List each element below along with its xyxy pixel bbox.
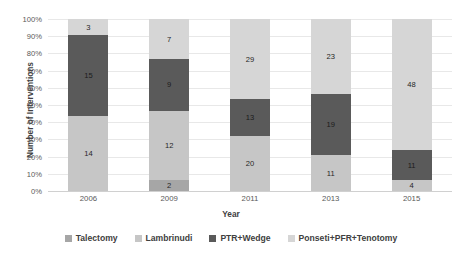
bar-column[interactable]: 31514 [68,19,108,191]
bar-segment[interactable]: 11 [392,150,432,180]
legend-swatch-icon [65,235,72,242]
chart-legend: TalectomyLambrinudiPTR+WedgePonseti+PFR+… [0,233,462,243]
x-axis-title: Year [0,209,462,219]
y-axis-tick-label: 0% [2,187,42,196]
y-axis-tick-label: 80% [2,49,42,58]
legend-label: Ponseti+PFR+Tenotomy [299,233,398,243]
bar-column[interactable]: 79122 [149,19,189,191]
bar-segment[interactable]: 3 [68,19,108,35]
bar-segment[interactable]: 48 [392,19,432,150]
bar-segment[interactable]: 9 [149,59,189,111]
bar-segment[interactable]: 13 [230,99,270,135]
bar-column[interactable]: 48114 [392,19,432,191]
bar-segment[interactable]: 12 [149,111,189,180]
x-axis-tick-label: 2015 [392,194,432,208]
bar-segment[interactable]: 20 [230,136,270,191]
bar-segment[interactable]: 23 [311,19,351,94]
y-axis-tick-label: 90% [2,32,42,41]
y-axis-tick-label: 10% [2,169,42,178]
y-axis-tick-label: 30% [2,135,42,144]
legend-swatch-icon [209,235,216,242]
bar-segment[interactable]: 19 [311,94,351,156]
bar-segment[interactable]: 15 [68,35,108,116]
y-axis-tick-label: 100% [2,15,42,24]
legend-item[interactable]: PTR+Wedge [209,233,270,243]
bar-segment[interactable]: 7 [149,19,189,59]
bar-series-group: 315147912229132023191148114 [48,19,452,191]
bar-segment[interactable]: 4 [392,180,432,191]
x-axis-tick-labels: 20062009201120132015 [48,194,452,208]
x-axis-tick-label: 2009 [149,194,189,208]
y-axis-tick-labels: 0%10%20%30%40%50%60%70%80%90%100% [0,19,46,191]
bar-segment[interactable]: 29 [230,19,270,99]
bar-column[interactable]: 291320 [230,19,270,191]
bar-segment[interactable]: 2 [149,180,189,191]
bar-segment[interactable]: 11 [311,155,351,191]
legend-label: PTR+Wedge [220,233,270,243]
legend-item[interactable]: Lambrinudi [135,233,193,243]
y-axis-tick-label: 60% [2,83,42,92]
x-axis-tick-label: 2013 [311,194,351,208]
legend-item[interactable]: Talectomy [65,233,118,243]
y-axis-tick-label: 70% [2,66,42,75]
bar-segment[interactable]: 14 [68,116,108,191]
x-axis-tick-label: 2006 [68,194,108,208]
legend-label: Talectomy [76,233,118,243]
y-axis-tick-label: 50% [2,101,42,110]
y-axis-tick-label: 40% [2,118,42,127]
legend-item[interactable]: Ponseti+PFR+Tenotomy [288,233,398,243]
bar-column[interactable]: 231911 [311,19,351,191]
x-axis-line [48,191,452,192]
x-axis-tick-label: 2011 [230,194,270,208]
legend-label: Lambrinudi [146,233,193,243]
legend-swatch-icon [288,235,295,242]
legend-swatch-icon [135,235,142,242]
stacked-bar-chart: Number of Interventions 0%10%20%30%40%50… [0,0,462,257]
y-axis-tick-label: 20% [2,152,42,161]
